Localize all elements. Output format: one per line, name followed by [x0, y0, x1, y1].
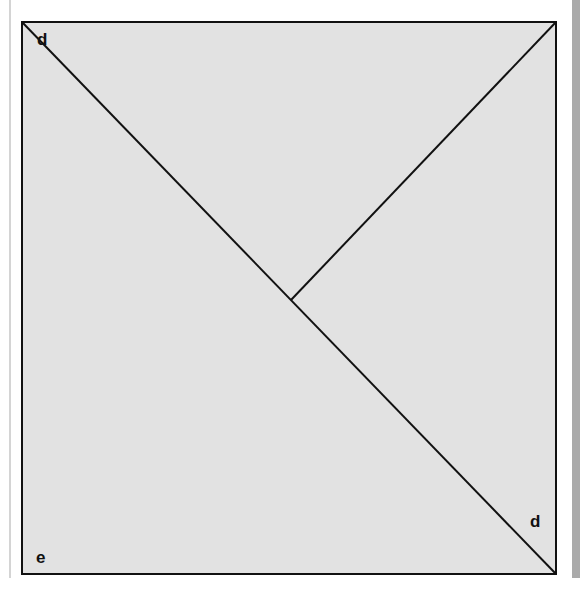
- label-bottom-left-e: e: [36, 548, 45, 567]
- geometry-figure: d d e: [0, 0, 580, 589]
- label-top-left-d: d: [37, 30, 47, 49]
- label-bottom-right-d: d: [530, 512, 540, 531]
